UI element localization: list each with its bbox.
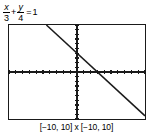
- fraction-y-over-4: y 4: [17, 3, 24, 23]
- plot-area: [9, 25, 145, 119]
- fraction-x-over-3: x 3: [3, 3, 10, 23]
- graph-line: [46, 25, 145, 116]
- equation-expression: x 3 + y 4 = 1: [3, 2, 38, 23]
- fraction-denominator: 3: [3, 14, 10, 23]
- fraction-numerator: y: [18, 3, 25, 12]
- line-graph-curve: [46, 25, 145, 116]
- graph-viewport: [8, 24, 146, 120]
- plus-operator: +: [10, 8, 17, 17]
- axes-layer: [9, 25, 145, 119]
- fraction-denominator: 4: [17, 14, 24, 23]
- window-range-caption: [−10, 10] x [−10, 10]: [0, 122, 153, 132]
- equation-right-side: 1: [33, 8, 38, 17]
- graph-svg: [9, 25, 145, 119]
- equals-sign: =: [24, 8, 32, 17]
- fraction-numerator: x: [3, 3, 10, 12]
